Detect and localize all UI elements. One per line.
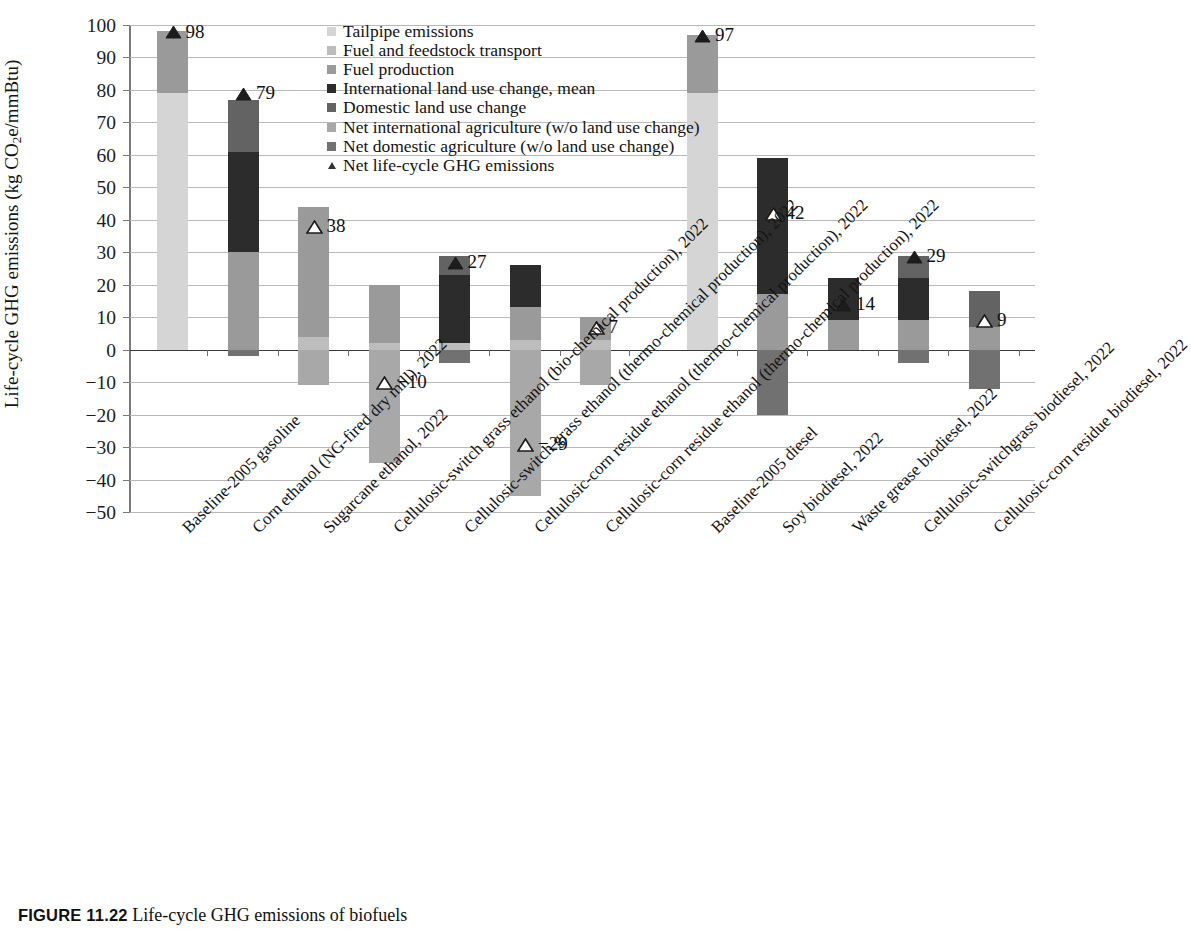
x-tick-label: Sugarcane ethanol, 2022: [320, 405, 451, 536]
x-tick-label: Baseline-2005 gasoline: [179, 411, 304, 536]
x-tick-label: Cellulosic-switch grass ethanol (bio-che…: [390, 215, 712, 537]
x-tick-label: Waste grease biodiesel, 2022: [849, 385, 1001, 537]
figure-caption: FIGURE 11.22 Life-cycle GHG emissions of…: [18, 905, 1078, 926]
